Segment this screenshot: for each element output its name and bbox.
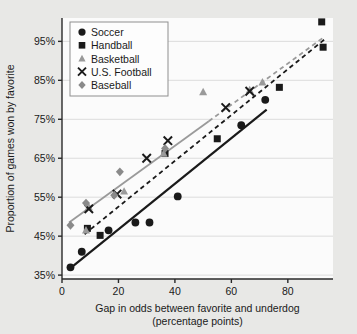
marker-circle: [131, 219, 139, 227]
marker-circle: [237, 121, 245, 129]
legend-label: Soccer: [91, 26, 124, 38]
marker-circle: [174, 193, 182, 201]
x-axis-title-line1: Gap in odds between favorite and underdo…: [95, 302, 299, 314]
marker-square: [97, 232, 104, 239]
legend: SoccerHandballBasketballU.S. FootballBas…: [70, 22, 168, 96]
marker-square: [214, 135, 221, 142]
y-tick-label: 75%: [34, 113, 55, 125]
y-axis-title: Proportion of games won by favorite: [4, 64, 16, 232]
marker-square: [276, 84, 283, 91]
x-tick-label: 80: [282, 285, 294, 297]
marker-circle: [261, 96, 269, 104]
marker-circle: [105, 226, 113, 234]
y-tick-label: 45%: [34, 230, 55, 242]
x-tick-label: 0: [59, 285, 65, 297]
legend-marker-square: [79, 42, 86, 49]
marker-square: [318, 18, 325, 25]
y-tick-label: 85%: [34, 74, 55, 86]
y-tick-label: 55%: [34, 191, 55, 203]
y-tick-label: 95%: [34, 35, 55, 47]
x-tick-label: 40: [169, 285, 181, 297]
legend-label: Handball: [91, 39, 132, 51]
x-tick-label: 20: [113, 285, 125, 297]
legend-label: U.S. Football: [91, 66, 152, 78]
x-axis-title-line2: (percentage points): [152, 315, 242, 327]
y-tick-label: 35%: [34, 269, 55, 281]
marker-circle: [67, 263, 75, 271]
legend-marker-circle: [78, 28, 85, 35]
legend-label: Baseball: [91, 79, 131, 91]
scatter-plot: 35%45%55%65%75%85%95%020406080Proportion…: [0, 0, 357, 334]
marker-circle: [146, 219, 154, 227]
marker-circle: [78, 248, 86, 256]
legend-label: Basketball: [91, 53, 139, 65]
marker-square: [320, 44, 327, 51]
y-tick-label: 65%: [34, 152, 55, 164]
x-tick-label: 60: [226, 285, 238, 297]
chart-figure: 35%45%55%65%75%85%95%020406080Proportion…: [0, 0, 357, 334]
